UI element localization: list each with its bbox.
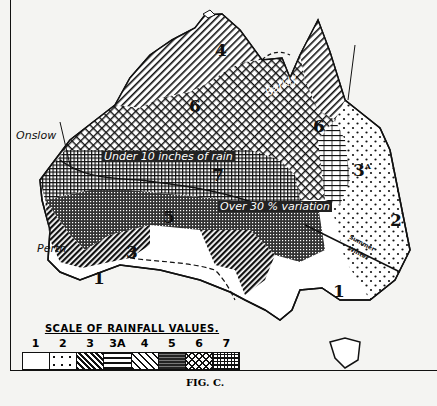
place-onslow: Onslow bbox=[16, 130, 56, 141]
region-label-6-east: 6 bbox=[313, 118, 325, 135]
legend-number: 1 bbox=[22, 337, 49, 350]
swatch-3a-brick bbox=[104, 353, 131, 369]
region-label-2: 2 bbox=[390, 212, 402, 229]
swatch-3-dense-diagonal bbox=[77, 353, 104, 369]
rainfall-legend: SCALE OF RAINFALL VALUES. 1 2 3 3A 4 5 6… bbox=[22, 323, 252, 370]
swatch-5-dense-dark bbox=[159, 353, 186, 369]
swatch-6-diamond bbox=[186, 353, 213, 369]
swatch-4-diagonal bbox=[132, 353, 159, 369]
region-label-1-sw: 1 bbox=[93, 270, 105, 287]
northeast-line bbox=[348, 45, 355, 100]
region-label-5-west: 5 bbox=[163, 209, 175, 226]
region-label-4: 4 bbox=[215, 42, 227, 59]
legend-number: 3 bbox=[77, 337, 104, 350]
figure-caption: FIG. C. bbox=[186, 377, 224, 388]
legend-numbers: 1 2 3 3A 4 5 6 7 bbox=[22, 337, 240, 350]
swatch-1-blank bbox=[23, 353, 50, 369]
region-label-6-west: 6 bbox=[189, 98, 201, 115]
annotation-under-10-inches: Under 10 inches of rain bbox=[102, 151, 235, 162]
legend-number: 6 bbox=[186, 337, 213, 350]
place-perth: Perth bbox=[37, 243, 66, 254]
tasmania bbox=[330, 338, 360, 368]
legend-number: 2 bbox=[49, 337, 76, 350]
region-label-1-se: 1 bbox=[333, 283, 345, 300]
region-label-3a: 3A bbox=[353, 162, 371, 179]
annotation-over-30-variation: Over 30 % variation bbox=[218, 201, 332, 212]
legend-number: 4 bbox=[131, 337, 158, 350]
legend-number: 5 bbox=[158, 337, 185, 350]
legend-swatches bbox=[22, 352, 240, 370]
region-label-7: 7 bbox=[212, 167, 224, 184]
frame-left-border bbox=[10, 0, 11, 371]
swatch-7-grid bbox=[213, 353, 239, 369]
legend-title: SCALE OF RAINFALL VALUES. bbox=[22, 323, 242, 334]
region-label-3: 3 bbox=[126, 244, 138, 261]
legend-number: 3A bbox=[104, 337, 131, 350]
legend-number: 7 bbox=[213, 337, 240, 350]
frame-bottom-border bbox=[10, 370, 437, 371]
swatch-2-dots bbox=[50, 353, 77, 369]
